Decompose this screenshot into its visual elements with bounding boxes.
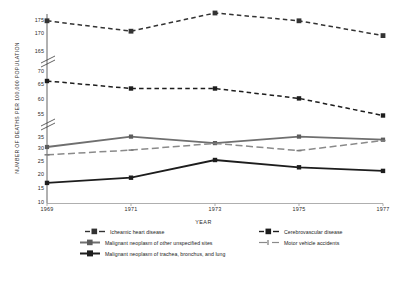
series-ischaemic-heart-disease (45, 11, 386, 38)
dashed-square-key-icon (85, 228, 107, 235)
legend-label: Cerebrovascular disease (284, 229, 343, 235)
legend-item-cerebrovascular-disease: Cerebrovascular disease (259, 228, 343, 235)
series-malignant-neoplasm-trachea-bronchus-lung (45, 0, 385, 185)
legend-item-malignant-neoplasm-other-sites: Malignant neoplasm of other unspecified … (80, 239, 213, 246)
x-tick-label: 1971 (125, 206, 138, 212)
legend-label: Malignant neoplasm of other unspecified … (105, 240, 213, 246)
solid-gray-square-key-icon (80, 239, 102, 246)
x-tick-label: 1977 (377, 206, 390, 212)
y-axis-break-upper (41, 56, 55, 67)
y-axis-break-lower (41, 119, 55, 130)
axis-lines (47, 14, 383, 204)
x-tick-label: 1975 (293, 206, 306, 212)
x-tick-label: 1969 (41, 206, 54, 212)
legend-item-ischaemic-heart-disease: Icheamic heart disease (85, 228, 164, 235)
legend-label: Icheamic heart disease (110, 229, 164, 235)
legend-label: Motor vehicle accidents (284, 240, 339, 246)
dashed-gray-tick-key-icon (259, 239, 281, 246)
series-cerebrovascular-disease (45, 79, 385, 118)
solid-black-square-key-icon (80, 250, 102, 257)
legend-label: Malignant neoplasm of trachea, bronchus,… (105, 251, 225, 257)
x-axis-title: YEAR (0, 219, 407, 225)
legend-item-malignant-neoplasm-trachea-bronchus-lung: Malignant neoplasm of trachea, bronchus,… (80, 250, 225, 257)
dashed-square-key-icon (259, 228, 281, 235)
legend-item-motor-vehicle-accidents: Motor vehicle accidents (259, 239, 339, 246)
mortality-line-chart: NUMBER OF DEATHS PER 100,000 POPULATION … (0, 0, 407, 285)
x-tick-label: 1973 (209, 206, 222, 212)
